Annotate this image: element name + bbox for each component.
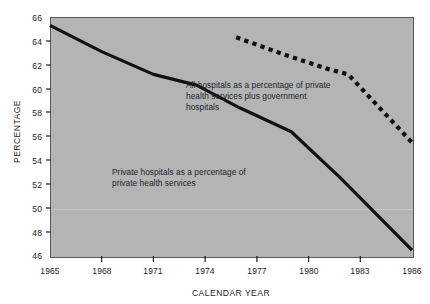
series-line-private-hospitals [50,25,412,250]
xtick-label: 1971 [133,266,173,276]
ytick-label: 52 [18,180,42,190]
xtick-label: 1977 [237,266,277,276]
annotation-private-hospitals: Private hospitals as a percentage of pri… [112,167,292,189]
xtick-label: 1968 [82,266,122,276]
ytick-label: 48 [18,228,42,238]
x-axis-ticks [102,256,361,262]
xtick-label: 1965 [30,266,70,276]
xtick-label: 1974 [185,266,225,276]
y-axis-ticks [46,41,51,232]
x-axis-title: CALENDAR YEAR [166,288,296,298]
annotation-all-hospitals: All hospitals as a percentage of private… [186,80,356,114]
xtick-label: 1980 [289,266,329,276]
ytick-label: 60 [18,85,42,95]
ytick-label: 62 [18,61,42,71]
xtick-label: 1983 [340,266,380,276]
chart-figure: 66 64 62 60 58 56 54 52 50 48 46 1965 19… [0,0,430,304]
ytick-label: 64 [18,37,42,47]
ytick-label: 46 [18,251,42,261]
chart-overlay [0,0,430,304]
y-axis-title: PERCENTAGE [12,100,22,163]
ytick-label: 66 [18,13,42,23]
ytick-label: 50 [18,204,42,214]
xtick-label: 1986 [392,266,430,276]
